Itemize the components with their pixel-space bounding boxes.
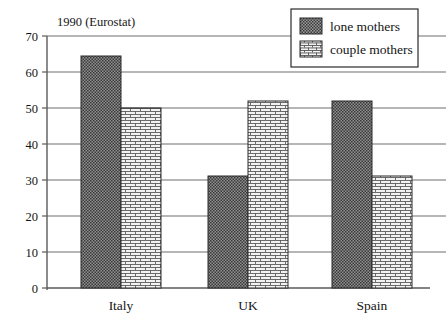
chart-title: 1990 (Eurostat) xyxy=(57,15,135,29)
bar-italy-couple-mothers[interactable] xyxy=(121,108,161,288)
y-tick-label: 30 xyxy=(26,174,39,188)
chart-canvas: 70 60 50 40 30 20 10 0 Italy UK xyxy=(0,0,448,334)
bar-uk-couple-mothers[interactable] xyxy=(248,101,288,288)
y-tick-label: 0 xyxy=(32,282,38,296)
y-tick-label: 60 xyxy=(26,66,39,80)
legend: lone mothers couple mothers xyxy=(291,9,418,67)
legend-label-couple-mothers: couple mothers xyxy=(330,42,413,57)
bar-uk-lone-mothers[interactable] xyxy=(208,176,248,288)
y-tick-label: 20 xyxy=(26,210,39,224)
bar-spain-lone-mothers[interactable] xyxy=(332,101,372,288)
y-tick-label: 70 xyxy=(26,30,39,44)
bar-chart: 70 60 50 40 30 20 10 0 Italy UK xyxy=(0,0,448,334)
x-tick-label-spain: Spain xyxy=(357,298,388,313)
bar-spain-couple-mothers[interactable] xyxy=(372,176,412,288)
lone-mothers-swatch xyxy=(300,18,322,34)
couple-mothers-swatch xyxy=(300,41,322,57)
bar-italy-lone-mothers[interactable] xyxy=(81,56,121,288)
x-tick-label-italy: Italy xyxy=(109,298,134,313)
y-tick-label: 50 xyxy=(26,102,39,116)
legend-label-lone-mothers: lone mothers xyxy=(330,19,400,34)
x-tick-label-uk: UK xyxy=(238,298,258,313)
y-tick-label: 40 xyxy=(26,138,39,152)
y-tick-label: 10 xyxy=(26,246,39,260)
